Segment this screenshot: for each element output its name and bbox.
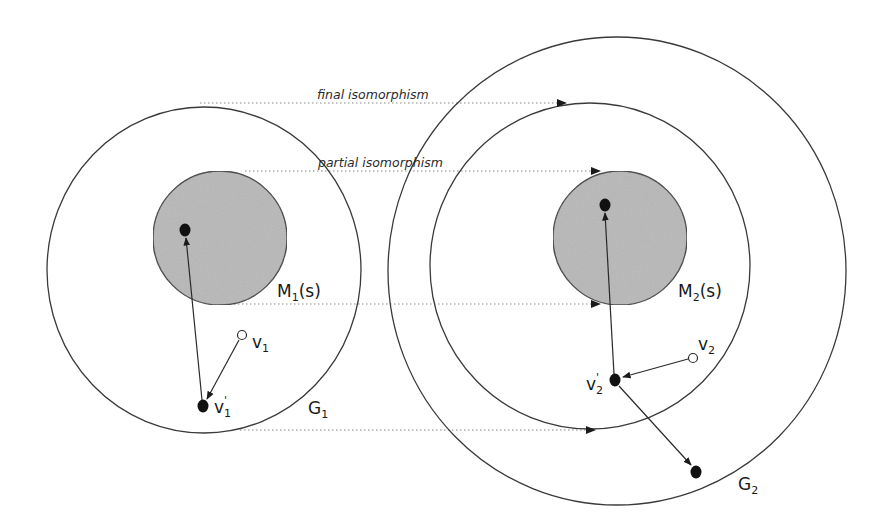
edge-v2prime-to-outer-node bbox=[619, 386, 691, 465]
subgraph-m1-disc bbox=[153, 171, 287, 305]
m2-label: M2(s) bbox=[678, 281, 722, 304]
v2-prime-label: v2' bbox=[586, 371, 603, 397]
v2-label: v2 bbox=[698, 334, 715, 357]
final-isomorphism-label: final isomorphism bbox=[317, 87, 429, 102]
node-v1 bbox=[238, 331, 247, 340]
partial-isomorphism-label: partial isomorphism bbox=[317, 155, 443, 170]
node-m2-mapped bbox=[600, 199, 611, 212]
node-v2-prime bbox=[610, 374, 621, 387]
g2-label: G2 bbox=[738, 474, 758, 497]
subgraph-m2-disc bbox=[553, 171, 687, 305]
node-g2-outer bbox=[691, 466, 702, 479]
edge-v2-to-v2prime bbox=[623, 359, 688, 377]
edge-v1-to-v1prime bbox=[207, 340, 239, 399]
node-v1-prime bbox=[198, 400, 209, 413]
isomorphism-diagram: final isomorphism partial isomorphism M1… bbox=[0, 0, 880, 530]
labels: final isomorphism partial isomorphism M1… bbox=[214, 87, 758, 497]
node-v2 bbox=[689, 354, 698, 363]
graph-bottom-arrowhead bbox=[586, 426, 596, 434]
m1-label: M1(s) bbox=[277, 281, 321, 304]
g1-label: G1 bbox=[308, 398, 328, 421]
node-m1-mapped bbox=[180, 224, 191, 237]
v1-label: v1 bbox=[252, 332, 269, 355]
v1-prime-label: v1' bbox=[214, 394, 231, 420]
